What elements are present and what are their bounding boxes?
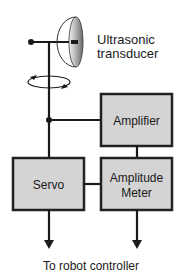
servo-output-arrow: [44, 210, 54, 249]
ultrasonic-sensor-diagram: Ultrasonic transducer Amplifier Servo Am…: [0, 0, 182, 280]
amplitude-meter-block: Amplitude Meter: [101, 158, 172, 210]
meter-output-arrow: [132, 210, 142, 249]
amplitude-meter-label-line1: Amplitude: [110, 171, 164, 185]
transducer-label-line2: transducer: [97, 46, 159, 61]
amplitude-meter-label-line2: Meter: [121, 186, 152, 200]
servo-label: Servo: [33, 178, 65, 192]
arm-end-dot: [28, 39, 34, 45]
amplifier-label: Amplifier: [113, 114, 160, 128]
output-label: To robot controller: [43, 259, 139, 273]
amplifier-block: Amplifier: [101, 94, 172, 146]
transducer-label-line1: Ultrasonic: [97, 32, 155, 47]
servo-block: Servo: [13, 158, 84, 210]
